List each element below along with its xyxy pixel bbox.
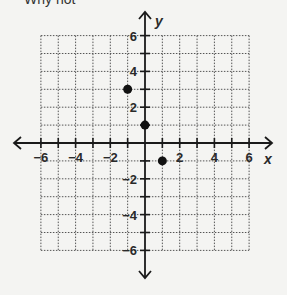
y-tick-label: −6 — [122, 243, 137, 258]
x-tick-label: 2 — [176, 150, 183, 165]
data-point — [141, 121, 150, 130]
x-tick-label: 6 — [245, 150, 252, 165]
x-tick-label: −4 — [68, 150, 84, 165]
y-axis-label: y — [154, 13, 164, 29]
x-tick-label: −2 — [103, 150, 118, 165]
axes — [14, 12, 272, 278]
tick-labels: −6−4−2246642−2−4−6xy — [33, 13, 273, 258]
y-tick-label: 6 — [130, 29, 137, 44]
coordinate-plane: −6−4−2246642−2−4−6xy — [0, 0, 287, 295]
y-tick-label: −4 — [122, 208, 138, 223]
x-tick-label: −6 — [33, 150, 48, 165]
data-point — [158, 156, 167, 165]
y-tick-label: 2 — [130, 100, 137, 115]
data-point — [123, 85, 132, 94]
x-tick-label: 4 — [211, 150, 219, 165]
y-tick-label: 4 — [130, 64, 138, 79]
x-axis-label: x — [263, 151, 273, 167]
y-tick-label: −2 — [122, 172, 137, 187]
